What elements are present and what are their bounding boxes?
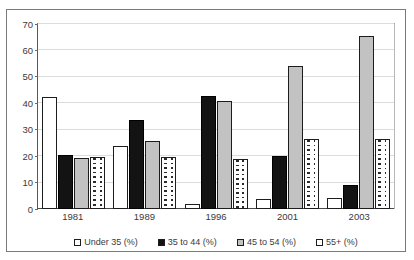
y-axis-label: 40 (22, 99, 33, 109)
x-axis-label-2003: 2003 (323, 212, 395, 222)
bar-group-1996 (180, 24, 251, 209)
y-axis-label: 0 (28, 204, 33, 214)
legend-swatch-icon (74, 239, 81, 246)
bar-2003-series-1 (343, 185, 358, 209)
y-axis-label: 30 (22, 125, 33, 135)
legend-swatch-icon (316, 239, 323, 246)
bar-1996-series-1 (201, 96, 216, 209)
bar-2003-series-3 (375, 139, 390, 209)
bar-1996-series-0 (185, 204, 200, 209)
bar-2003-series-2 (359, 36, 374, 209)
legend-label: 45 to 54 (%) (247, 238, 296, 247)
bar-2001-series-1 (272, 156, 287, 209)
bar-group-2003 (323, 24, 394, 209)
legend-label: 55+ (%) (326, 238, 358, 247)
bar-2001-series-0 (256, 199, 271, 210)
bar-group-2001 (252, 24, 323, 209)
legend-item-0[interactable]: Under 35 (%) (74, 238, 138, 247)
y-axis-label: 20 (22, 151, 33, 161)
bar-group-1981 (38, 24, 109, 209)
bar-1981-series-0 (42, 97, 57, 209)
plot-inner: 010203040506070 (38, 24, 394, 209)
bar-1996-series-3 (233, 159, 248, 209)
plot-area: 010203040506070 (37, 23, 395, 209)
x-axis-label-1989: 1989 (109, 212, 181, 222)
bar-1981-series-1 (58, 155, 73, 209)
bar-1989-series-0 (113, 146, 128, 209)
bar-2003-series-0 (327, 198, 342, 209)
y-axis-label: 60 (22, 46, 33, 56)
bar-2001-series-3 (304, 139, 319, 209)
legend-swatch-icon (237, 239, 244, 246)
x-axis-label-1981: 1981 (37, 212, 109, 222)
legend-label: 35 to 44 (%) (168, 238, 217, 247)
y-axis-label: 50 (22, 72, 33, 82)
x-axis-labels: 19811989199620012003 (37, 212, 395, 222)
legend-swatch-icon (158, 239, 165, 246)
bar-1989-series-3 (161, 157, 176, 209)
bar-1981-series-3 (90, 157, 105, 209)
legend-item-2[interactable]: 45 to 54 (%) (237, 238, 296, 247)
x-axis-label-2001: 2001 (252, 212, 324, 222)
bar-1989-series-2 (145, 141, 160, 209)
legend-label: Under 35 (%) (84, 238, 138, 247)
bar-1981-series-2 (74, 158, 89, 209)
bar-2001-series-2 (288, 66, 303, 209)
chart-frame: 010203040506070 19811989199620012003 Und… (6, 9, 406, 252)
legend-item-1[interactable]: 35 to 44 (%) (158, 238, 217, 247)
bar-1996-series-2 (217, 101, 232, 209)
bar-group-1989 (109, 24, 180, 209)
y-axis-label: 70 (22, 19, 33, 29)
bar-groups (38, 24, 394, 209)
chart-legend: Under 35 (%)35 to 44 (%)45 to 54 (%)55+ … (37, 238, 395, 247)
legend-item-3[interactable]: 55+ (%) (316, 238, 358, 247)
x-axis-label-1996: 1996 (180, 212, 252, 222)
y-axis-label: 10 (22, 178, 33, 188)
bar-1989-series-1 (129, 120, 144, 209)
